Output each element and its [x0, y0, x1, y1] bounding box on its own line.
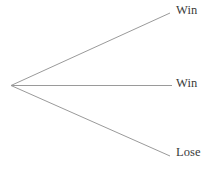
branch-label-top: Win — [176, 4, 197, 17]
branch-label-middle: Win — [176, 77, 197, 90]
probability-tree-diagram: Win Win Lose — [0, 0, 215, 171]
branch-line-bottom — [11, 86, 170, 157]
branch-label-bottom: Lose — [176, 146, 201, 159]
branch-line-top — [11, 13, 170, 86]
